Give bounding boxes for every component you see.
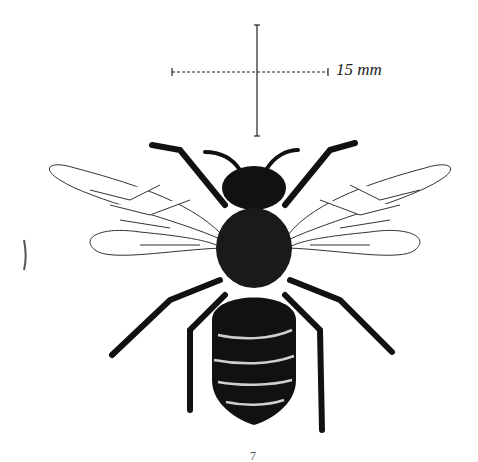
bee-head — [222, 166, 286, 210]
bee-illustration — [0, 0, 478, 462]
bee-thorax — [216, 208, 292, 288]
scale-label: 15 mm — [336, 60, 382, 80]
figure-canvas: 15 mm 7 — [0, 0, 478, 462]
left-wings — [49, 165, 222, 255]
plate-number: 7 — [250, 449, 256, 462]
scale-bar — [172, 25, 328, 136]
page-edge-mark — [24, 240, 26, 270]
right-wings — [288, 165, 451, 255]
